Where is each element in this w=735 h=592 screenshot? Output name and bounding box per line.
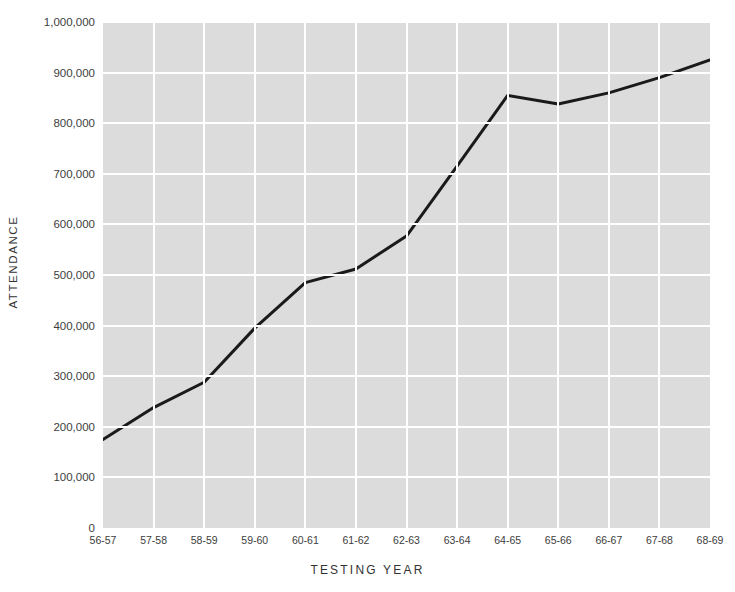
x-axis-tick-label: 68-69 <box>680 534 735 546</box>
gridline-vertical <box>557 22 559 528</box>
gridline-vertical <box>254 22 256 528</box>
y-axis-title: ATTENDANCE <box>7 182 19 342</box>
y-axis-tick-label: 100,000 <box>3 471 95 483</box>
gridline-vertical <box>507 22 509 528</box>
y-axis-tick-label: 1,000,000 <box>3 16 95 28</box>
plot-area <box>103 22 710 528</box>
gridline-vertical <box>355 22 357 528</box>
chart-title-clipped <box>0 0 735 3</box>
x-axis-title: TESTING YEAR <box>0 563 735 577</box>
y-axis-tick-label: 200,000 <box>3 421 95 433</box>
y-axis-tick-label: 900,000 <box>3 67 95 79</box>
y-axis-tick-label: 800,000 <box>3 117 95 129</box>
gridline-vertical <box>658 22 660 528</box>
y-axis-tick-label: 300,000 <box>3 370 95 382</box>
gridline-vertical <box>456 22 458 528</box>
y-axis-tick-label: 700,000 <box>3 168 95 180</box>
gridline-vertical <box>304 22 306 528</box>
gridline-vertical <box>153 22 155 528</box>
x-axis-tick-labels: 56-5757-5858-5959-6060-6161-6262-6363-64… <box>103 534 710 550</box>
chart-figure: 0100,000200,000300,000400,000500,000600,… <box>0 0 735 592</box>
y-axis-tick-label: 0 <box>3 522 95 534</box>
gridline-vertical <box>203 22 205 528</box>
gridline-vertical <box>406 22 408 528</box>
gridline-vertical <box>608 22 610 528</box>
